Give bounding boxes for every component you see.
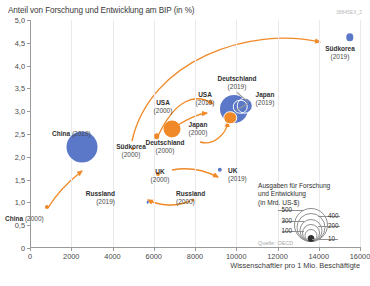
y-tick <box>27 20 31 21</box>
y-tick-label: 1,0 <box>15 198 25 207</box>
legend-label-500: 500 <box>281 206 292 213</box>
label-deutschland-2000: Deutschland (2000) <box>145 139 184 155</box>
legend-label-100: 100 <box>281 227 292 234</box>
label-uk-2000-name: UK <box>155 168 164 175</box>
label-deutschland-2000-name: Deutschland <box>145 139 184 146</box>
label-deutschland-2000-year: (2000) <box>156 147 175 154</box>
y-tick-label: 0 <box>21 244 25 253</box>
label-suedkorea-2000-name: Südkorea <box>116 143 146 150</box>
label-deutschland-2019-name: Deutschland <box>217 75 256 82</box>
label-russland-2000-year: (2000) <box>176 198 195 205</box>
label-china-2019-year: (2019) <box>72 130 91 137</box>
legend-title-line2: und Entwicklung <box>258 190 306 197</box>
y-tick-label: 1,5 <box>15 175 25 184</box>
label-suedkorea-2000-year: (2000) <box>122 151 141 158</box>
label-uk-2019-name: UK <box>228 167 237 174</box>
label-russland-2000-name: Russland <box>176 190 205 197</box>
label-usa-2019: USA (2019) <box>196 91 215 107</box>
label-usa-2000: USA (2000) <box>154 99 173 115</box>
label-suedkorea-2019-name: Südkorea <box>325 45 355 52</box>
x-tick <box>71 247 72 251</box>
label-suedkorea-2000: Südkorea (2000) <box>116 143 146 159</box>
x-tick-label: 12000 <box>267 252 288 261</box>
y-tick <box>27 43 31 44</box>
gridline <box>113 20 114 248</box>
label-suedkorea-2019-year: (2019) <box>331 53 350 60</box>
y-tick-label: 3,5 <box>15 84 25 93</box>
x-tick <box>154 247 155 251</box>
label-usa-2019-year: (2019) <box>196 99 215 106</box>
label-china-2000: China (2000) <box>5 215 44 223</box>
label-deutschland-2019: Deutschland (2019) <box>217 75 256 91</box>
x-tick-label: 2000 <box>63 252 79 261</box>
size-legend: Ausgaben für Forschung und Entwicklung (… <box>258 182 364 242</box>
y-tick-label: 5,0 <box>15 16 25 25</box>
y-tick-label: 3,0 <box>15 107 25 116</box>
label-china-2000-year: (2000) <box>25 215 44 222</box>
page-title: Anteil von Forschung und Entwicklung am … <box>8 6 194 15</box>
x-tick-label: 4000 <box>104 252 120 261</box>
label-china-2019: China (2019) <box>52 130 91 138</box>
x-axis-title: Wissenschaftler pro 1 Mio. Beschäftigte <box>230 261 360 270</box>
label-japan-2019-year: (2019) <box>256 99 275 106</box>
label-japan-2019-name: Japan <box>256 91 275 98</box>
label-china-2000-name: China <box>5 215 23 222</box>
label-suedkorea-2019: Südkorea (2019) <box>325 45 355 61</box>
x-tick <box>113 247 114 251</box>
y-tick <box>27 202 31 203</box>
label-uk-2019-year: (2019) <box>228 175 247 182</box>
bubble-russland-2019[interactable] <box>146 201 149 204</box>
label-japan-2000: Japan (2000) <box>189 121 208 137</box>
label-russland-2019-year: (2019) <box>96 198 115 205</box>
label-usa-2000-name: USA <box>156 99 170 106</box>
x-tick <box>30 247 31 251</box>
legend-label-10: 10 <box>328 235 335 242</box>
y-tick <box>27 111 31 112</box>
label-deutschland-2019-year: (2019) <box>228 83 247 90</box>
label-russland-2000: Russland (2000) <box>176 190 205 206</box>
x-tick <box>360 247 361 251</box>
x-tick-label: 0 <box>28 252 32 261</box>
label-usa-2019-name: USA <box>198 91 212 98</box>
source-note: Quelle: OECD <box>258 240 293 246</box>
legend-label-300: 300 <box>281 217 292 224</box>
legend-bubble-stack: 500 300 100 400 200 10 <box>258 209 364 242</box>
label-russland-2019-name: Russland <box>86 190 115 197</box>
label-usa-2000-year: (2000) <box>154 107 173 114</box>
label-japan-2000-name: Japan <box>189 121 208 128</box>
y-tick-label: 2,5 <box>15 130 25 139</box>
legend-title-line3: (in Mrd. US-$) <box>258 199 299 206</box>
y-tick <box>27 157 31 158</box>
x-tick <box>236 247 237 251</box>
x-tick-label: 14000 <box>308 252 329 261</box>
label-china-2019-name: China <box>52 130 70 137</box>
legend-title: Ausgaben für Forschung und Entwicklung (… <box>258 182 364 207</box>
x-tick <box>195 247 196 251</box>
y-tick <box>27 225 31 226</box>
label-uk-2000: UK (2000) <box>151 168 170 184</box>
x-tick <box>319 247 320 251</box>
gridline <box>236 20 237 248</box>
bubble-uk-2019[interactable] <box>218 167 222 171</box>
label-japan-2019: Japan (2019) <box>256 91 275 107</box>
y-tick <box>27 134 31 135</box>
bubble-suedkorea-2019[interactable] <box>346 34 353 41</box>
y-tick <box>27 88 31 89</box>
label-uk-2019: UK (2019) <box>228 167 247 183</box>
y-tick <box>27 180 31 181</box>
x-tick-label: 10000 <box>226 252 247 261</box>
x-tick-label: 8000 <box>187 252 203 261</box>
x-tick <box>278 247 279 251</box>
legend-title-line1: Ausgaben für Forschung <box>258 182 330 189</box>
x-tick-label: 6000 <box>146 252 162 261</box>
legend-label-200: 200 <box>328 222 339 229</box>
label-uk-2000-year: (2000) <box>151 176 170 183</box>
y-tick-label: 4,5 <box>15 38 25 47</box>
bubble-usa-2000[interactable] <box>164 120 181 137</box>
y-tick-label: 2,0 <box>15 152 25 161</box>
y-tick-label: 4,0 <box>15 61 25 70</box>
bubble-china-2000[interactable] <box>44 205 48 209</box>
legend-label-400: 400 <box>328 212 339 219</box>
label-russland-2019: Russland (2019) <box>86 190 115 206</box>
